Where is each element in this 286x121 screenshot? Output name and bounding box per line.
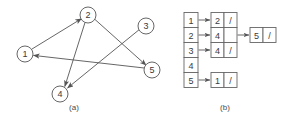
graph-nodes: 1 2 3 4 5 bbox=[17, 7, 160, 102]
index-cell-5-label: 5 bbox=[188, 76, 193, 86]
graph-node-1-label: 1 bbox=[22, 49, 27, 59]
edge-5-to-1 bbox=[33, 55, 144, 68]
row-5-node-0-value: 1 bbox=[215, 76, 220, 86]
adjacency-row-5: 1 / bbox=[199, 73, 238, 88]
graph-node-4[interactable]: 4 bbox=[52, 86, 68, 102]
edge-1-to-2 bbox=[32, 19, 82, 49]
caption-a: (a) bbox=[62, 103, 86, 112]
graph-node-2[interactable]: 2 bbox=[80, 7, 96, 23]
graph-node-1[interactable]: 1 bbox=[17, 46, 33, 62]
row-2-node-0-value: 4 bbox=[215, 31, 220, 41]
row-3-node-0-value: 4 bbox=[215, 46, 220, 56]
row-2-node-1-value: 5 bbox=[254, 31, 259, 41]
adjacency-index-column: 1 2 3 4 5 bbox=[184, 13, 198, 88]
graph-node-4-label: 4 bbox=[57, 89, 62, 99]
row-2-node-0-next-box[interactable] bbox=[224, 28, 237, 43]
index-cell-3-label: 3 bbox=[188, 46, 193, 56]
adjacency-row-3: 4 / bbox=[199, 43, 238, 58]
adjacency-row-1: 2 / bbox=[199, 13, 238, 28]
adjacency-row-2: 4 5 / bbox=[199, 28, 277, 43]
figure-graph-and-adjacency-list: 1 2 3 4 5 1 2 3 4 5 bbox=[0, 0, 286, 121]
graph-node-5-label: 5 bbox=[149, 65, 154, 75]
index-cell-1-label: 1 bbox=[188, 16, 193, 26]
index-cell-2-label: 2 bbox=[188, 31, 193, 41]
caption-b: (b) bbox=[213, 103, 237, 112]
index-cell-4-label: 4 bbox=[188, 61, 193, 71]
graph-edges bbox=[32, 19, 146, 88]
graph-node-3-label: 3 bbox=[143, 21, 148, 31]
graph-node-5[interactable]: 5 bbox=[144, 62, 160, 78]
graph-node-3[interactable]: 3 bbox=[138, 18, 154, 34]
edge-2-to-4 bbox=[65, 23, 85, 87]
graph-node-2-label: 2 bbox=[85, 10, 90, 20]
edge-3-to-4 bbox=[68, 30, 140, 88]
row-1-node-0-value: 2 bbox=[215, 16, 220, 26]
